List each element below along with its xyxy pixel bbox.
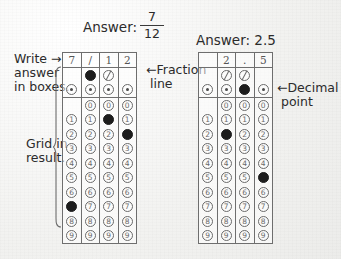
bubble-digit-8-empty[interactable]: 8: [103, 216, 114, 227]
bubble-digit-0-empty[interactable]: 0: [103, 100, 114, 111]
bubble-dot-empty[interactable]: [122, 84, 133, 95]
bubble-digit-1-filled[interactable]: 1: [103, 114, 114, 125]
bubble-digit-4-empty[interactable]: 4: [122, 158, 133, 169]
decimal-point-row-cell[interactable]: [258, 83, 269, 98]
bubble-digit-5-empty[interactable]: 5: [202, 172, 213, 183]
digit-row-2[interactable]: 2: [221, 127, 232, 142]
digit-row-5[interactable]: 5: [202, 171, 213, 186]
write-in-cell[interactable]: .: [236, 53, 254, 68]
digit-row-3[interactable]: 3: [258, 142, 269, 157]
digit-row-4[interactable]: 4: [103, 156, 114, 171]
digit-row-4[interactable]: 4: [66, 156, 77, 171]
bubble-digit-4-empty[interactable]: 4: [66, 158, 77, 169]
bubble-digit-8-empty[interactable]: 8: [66, 216, 77, 227]
digit-row-1[interactable]: 1: [85, 113, 96, 128]
digit-row-9[interactable]: 9: [122, 229, 133, 244]
bubble-digit-5-empty[interactable]: 5: [122, 172, 133, 183]
digit-row-4[interactable]: 4: [122, 156, 133, 171]
bubble-digit-7-empty[interactable]: 7: [122, 201, 133, 212]
write-in-cell[interactable]: 1: [100, 53, 118, 68]
digit-row-8[interactable]: 8: [239, 214, 250, 229]
bubble-digit-9-empty[interactable]: 9: [122, 230, 133, 241]
digit-row-5[interactable]: 5: [103, 171, 114, 186]
bubble-digit-8-empty[interactable]: 8: [221, 216, 232, 227]
digit-row-5[interactable]: 5: [122, 171, 133, 186]
bubble-dot-empty[interactable]: [103, 84, 114, 95]
digit-row-7[interactable]: 7: [103, 200, 114, 215]
digit-row-1[interactable]: 1: [239, 113, 250, 128]
digit-row-4[interactable]: 4: [239, 156, 250, 171]
fraction-line-row-cell[interactable]: [103, 68, 114, 83]
bubble-slash-empty[interactable]: [221, 70, 232, 81]
bubble-digit-2-empty[interactable]: 2: [85, 129, 96, 140]
digit-row-0[interactable]: [202, 98, 213, 113]
digit-row-5[interactable]: 5: [85, 171, 96, 186]
bubble-digit-6-empty[interactable]: 6: [66, 187, 77, 198]
bubble-digit-2-empty[interactable]: 2: [258, 129, 269, 140]
bubble-digit-3-empty[interactable]: 3: [239, 143, 250, 154]
decimal-point-row-cell[interactable]: [202, 83, 213, 98]
bubble-digit-0-empty[interactable]: 0: [122, 100, 133, 111]
answer-grid-fraction[interactable]: 7123456789/01234567891012345678920123456…: [62, 52, 137, 244]
bubble-digit-3-empty[interactable]: 3: [221, 143, 232, 154]
digit-row-3[interactable]: 3: [202, 142, 213, 157]
bubble-digit-2-filled[interactable]: 2: [221, 129, 232, 140]
digit-row-0[interactable]: 0: [221, 98, 232, 113]
bubble-digit-3-empty[interactable]: 3: [258, 143, 269, 154]
write-in-cell[interactable]: [199, 53, 217, 68]
bubble-digit-6-empty[interactable]: 6: [103, 187, 114, 198]
bubble-digit-3-empty[interactable]: 3: [85, 143, 96, 154]
bubble-digit-8-empty[interactable]: 8: [258, 216, 269, 227]
digit-row-0[interactable]: 0: [103, 98, 114, 113]
bubble-digit-9-empty[interactable]: 9: [221, 230, 232, 241]
digit-row-0[interactable]: 0: [85, 98, 96, 113]
write-in-cell[interactable]: 2: [119, 53, 137, 68]
bubble-digit-7-empty[interactable]: 7: [103, 201, 114, 212]
digit-row-2[interactable]: 2: [66, 127, 77, 142]
bubble-digit-4-empty[interactable]: 4: [258, 158, 269, 169]
bubble-digit-5-empty[interactable]: 5: [66, 172, 77, 183]
bubble-digit-9-empty[interactable]: 9: [202, 230, 213, 241]
bubble-digit-1-empty[interactable]: 1: [66, 114, 77, 125]
digit-row-0[interactable]: 0: [239, 98, 250, 113]
bubble-digit-3-empty[interactable]: 3: [202, 143, 213, 154]
digit-row-3[interactable]: 3: [221, 142, 232, 157]
bubble-dot-empty[interactable]: [85, 84, 96, 95]
write-in-cell[interactable]: 2: [218, 53, 236, 68]
bubble-digit-1-empty[interactable]: 1: [122, 114, 133, 125]
bubble-digit-1-empty[interactable]: 1: [202, 114, 213, 125]
bubble-dot-empty[interactable]: [202, 84, 213, 95]
fraction-line-row-cell[interactable]: [221, 68, 232, 83]
digit-row-7[interactable]: 7: [258, 200, 269, 215]
bubble-digit-8-empty[interactable]: 8: [202, 216, 213, 227]
bubble-digit-5-filled[interactable]: 5: [258, 172, 269, 183]
bubble-digit-1-empty[interactable]: 1: [221, 114, 232, 125]
digit-row-8[interactable]: 8: [122, 214, 133, 229]
digit-row-4[interactable]: 4: [221, 156, 232, 171]
digit-row-7[interactable]: 7: [202, 200, 213, 215]
fraction-line-row-cell[interactable]: [239, 68, 250, 83]
bubble-digit-2-empty[interactable]: 2: [66, 129, 77, 140]
bubble-digit-8-empty[interactable]: 8: [122, 216, 133, 227]
bubble-digit-2-filled[interactable]: 2: [122, 129, 133, 140]
bubble-digit-0-empty[interactable]: 0: [239, 100, 250, 111]
bubble-digit-8-empty[interactable]: 8: [239, 216, 250, 227]
bubble-digit-0-empty[interactable]: 0: [258, 100, 269, 111]
bubble-digit-3-empty[interactable]: 3: [122, 143, 133, 154]
digit-row-6[interactable]: 6: [221, 185, 232, 200]
bubble-dot-empty[interactable]: [66, 84, 77, 95]
digit-row-9[interactable]: 9: [221, 229, 232, 244]
bubble-digit-7-empty[interactable]: 7: [85, 201, 96, 212]
decimal-point-row-cell[interactable]: [66, 83, 77, 98]
bubble-digit-0-empty[interactable]: 0: [221, 100, 232, 111]
bubble-digit-4-empty[interactable]: 4: [239, 158, 250, 169]
decimal-point-row-cell[interactable]: [239, 83, 250, 98]
digit-row-1[interactable]: 1: [202, 113, 213, 128]
bubble-slash-filled[interactable]: [85, 70, 96, 81]
bubble-digit-6-empty[interactable]: 6: [85, 187, 96, 198]
digit-row-2[interactable]: 2: [85, 127, 96, 142]
digit-row-3[interactable]: 3: [66, 142, 77, 157]
fraction-line-row-cell[interactable]: [122, 68, 133, 83]
fraction-line-row-cell[interactable]: [66, 68, 77, 83]
digit-row-9[interactable]: 9: [66, 229, 77, 244]
